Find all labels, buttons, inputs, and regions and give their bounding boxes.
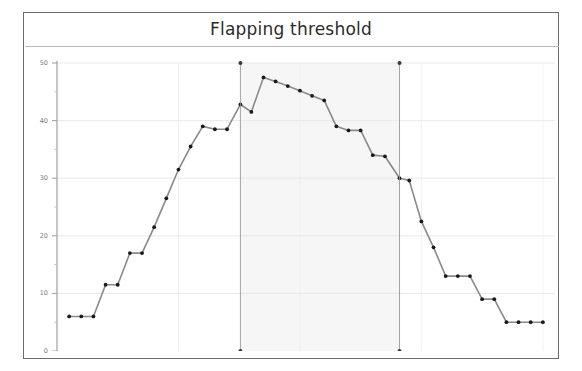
y-tick-label: 40 <box>40 117 48 125</box>
y-tick-label: 10 <box>40 289 48 297</box>
plot-area: 01020304050 10203040 <box>34 51 558 351</box>
chart-panel: Flapping threshold 01020304050 10203040 <box>23 12 559 359</box>
shaded-region <box>240 63 399 351</box>
line-chart-svg <box>34 51 558 351</box>
y-tick-label: 30 <box>40 174 48 182</box>
chart-title: Flapping threshold <box>24 19 558 39</box>
title-divider <box>25 46 559 47</box>
y-tick-label: 0 <box>44 347 48 355</box>
y-tick-label: 20 <box>40 232 48 240</box>
y-tick-label: 50 <box>40 59 48 67</box>
